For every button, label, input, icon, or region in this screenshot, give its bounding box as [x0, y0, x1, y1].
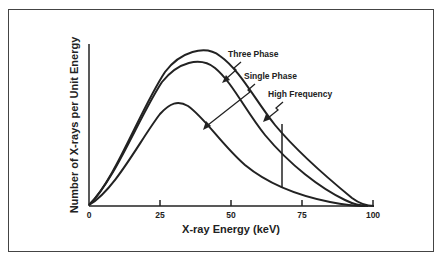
- x-tick-100: 100: [366, 210, 380, 220]
- annot-single-phase: Single Phase: [244, 71, 297, 81]
- curve-single-phase: [89, 103, 365, 206]
- x-tick-75: 75: [297, 210, 307, 220]
- x-tick-25: 25: [155, 210, 165, 220]
- x-axis-title: X-ray Energy (keV): [182, 223, 280, 235]
- y-axis-title: Number of X-rays per Unit Energy: [68, 36, 80, 214]
- x-tick-0: 0: [87, 210, 92, 220]
- arrow-high-frequency: [268, 102, 283, 118]
- annot-high-frequency: High Frequency: [268, 89, 333, 99]
- arrowhead-high-frequency: [263, 114, 271, 122]
- arrow-single-phase: [208, 84, 255, 125]
- annot-three-phase: Three Phase: [228, 49, 279, 59]
- curve-three-phase: [89, 62, 368, 206]
- xray-spectrum-chart: 0 25 50 75 100 X-ray Energy (keV) Number…: [0, 0, 441, 260]
- x-tick-50: 50: [226, 210, 236, 220]
